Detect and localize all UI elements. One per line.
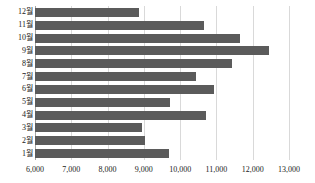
y-axis-category-label: 8월 [0,59,33,68]
bar-1월 [35,149,169,158]
bar-row [35,34,289,43]
x-axis-tick-label: 10,000 [169,165,191,175]
y-axis-category-label: 2월 [0,136,33,145]
bar-row [35,123,289,132]
bar-row [35,8,289,17]
bar-row [35,111,289,120]
bar-6월 [35,85,214,94]
bar-row [35,72,289,81]
bar-row [35,46,289,55]
x-axis-tick-label: 13,000 [278,165,300,175]
bar-3월 [35,123,142,132]
bar-12월 [35,8,139,17]
bar-row [35,21,289,30]
x-axis-tick-label: 8,000 [99,165,117,175]
bar-8월 [35,59,232,68]
bar-chart: 6,0007,0008,0009,00010,00011,00012,00013… [0,0,315,183]
bar-row [35,98,289,107]
y-axis-category-label: 7월 [0,72,33,81]
y-axis-category-label: 6월 [0,84,33,93]
bar-row [35,85,289,94]
y-axis-category-label: 12월 [0,7,33,16]
plot-area [35,6,289,160]
y-axis-category-label: 10월 [0,33,33,42]
bar-row [35,59,289,68]
bar-9월 [35,46,269,55]
bar-2월 [35,136,145,145]
bar-5월 [35,98,170,107]
bar-row [35,149,289,158]
y-axis-category-label: 5월 [0,97,33,106]
y-axis-category-label: 4월 [0,110,33,119]
y-axis-category-label: 9월 [0,46,33,55]
y-axis-category-label: 11월 [0,20,33,29]
bar-11월 [35,21,204,30]
x-axis-tick-label: 11,000 [206,165,228,175]
bar-10월 [35,34,240,43]
x-axis-tick-label: 9,000 [135,165,153,175]
x-axis-tick-label: 7,000 [62,165,80,175]
y-axis-category-label: 1월 [0,149,33,158]
x-axis-tick-label: 12,000 [242,165,264,175]
bar-4월 [35,111,206,120]
x-axis-tick-label: 6,000 [26,165,44,175]
bar-7월 [35,72,196,81]
x-gridline [289,6,290,160]
y-axis-category-label: 3월 [0,123,33,132]
bar-row [35,136,289,145]
